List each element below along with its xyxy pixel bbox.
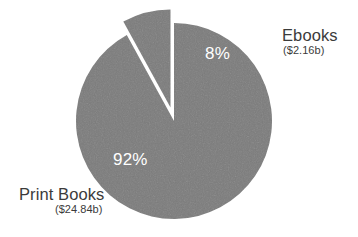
- slice-label-print-books-name: Print Books: [19, 186, 104, 203]
- slice-label-ebooks: Ebooks ($2.16b): [282, 27, 338, 56]
- slice-label-ebooks-name: Ebooks: [282, 27, 338, 44]
- slice-percent-label-ebooks: 8%: [205, 44, 230, 64]
- slice-label-ebooks-value: ($2.16b): [283, 45, 338, 56]
- slice-label-print-books: Print Books ($24.84b): [19, 186, 104, 215]
- slice-percent-label-print-books: 92%: [113, 150, 148, 170]
- slice-label-print-books-value: ($24.84b): [19, 204, 104, 215]
- pie-chart-figure: 8% 92% Ebooks ($2.16b) Print Books ($24.…: [0, 0, 358, 237]
